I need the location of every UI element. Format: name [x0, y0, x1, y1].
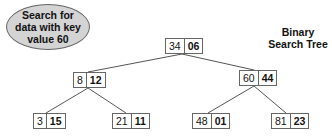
node-data: 11	[132, 114, 149, 128]
edge-root-left	[88, 54, 182, 72]
edge-right-left	[208, 86, 254, 113]
diagram-title: Binary Search Tree	[268, 26, 328, 50]
node-data: 06	[185, 39, 203, 53]
search-callout: Search for data with key value 60	[6, 4, 90, 50]
tree-node-right: 60 44	[239, 70, 277, 86]
tree-node-right-left: 48 01	[192, 113, 230, 129]
title-line: Search Tree	[268, 38, 328, 50]
node-data: 01	[212, 114, 230, 128]
node-key: 3	[34, 114, 47, 128]
callout-line: value 60	[15, 33, 81, 45]
node-key: 8	[74, 73, 87, 87]
node-data: 12	[87, 73, 105, 87]
callout-line: Search for	[15, 9, 81, 21]
callout-line: data with key	[15, 21, 81, 33]
node-key: 48	[193, 114, 212, 128]
node-data: 15	[47, 114, 65, 128]
tree-node-root: 34 06	[165, 38, 203, 54]
edge-left-left	[46, 88, 88, 113]
tree-node-left-left: 3 15	[33, 113, 66, 129]
node-data: 23	[291, 114, 309, 128]
tree-node-left: 8 12	[73, 72, 106, 88]
node-key: 34	[166, 39, 185, 53]
node-key: 81	[272, 114, 291, 128]
edge-root-right	[182, 54, 254, 70]
node-data: 44	[259, 71, 277, 85]
edge-right-right	[254, 86, 286, 113]
tree-node-right-right: 81 23	[271, 113, 309, 129]
node-key: 21	[113, 114, 132, 128]
edge-left-right	[88, 88, 126, 113]
tree-node-left-right: 21 11	[112, 113, 150, 129]
node-key: 60	[240, 71, 259, 85]
title-line: Binary	[268, 26, 328, 38]
